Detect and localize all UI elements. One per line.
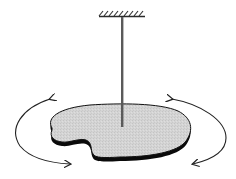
hatch-marks bbox=[99, 11, 143, 16]
torsion-pendulum-diagram bbox=[0, 0, 236, 179]
torsion-wire bbox=[121, 17, 123, 127]
disc bbox=[51, 104, 191, 158]
ceiling-mount bbox=[99, 11, 145, 17]
